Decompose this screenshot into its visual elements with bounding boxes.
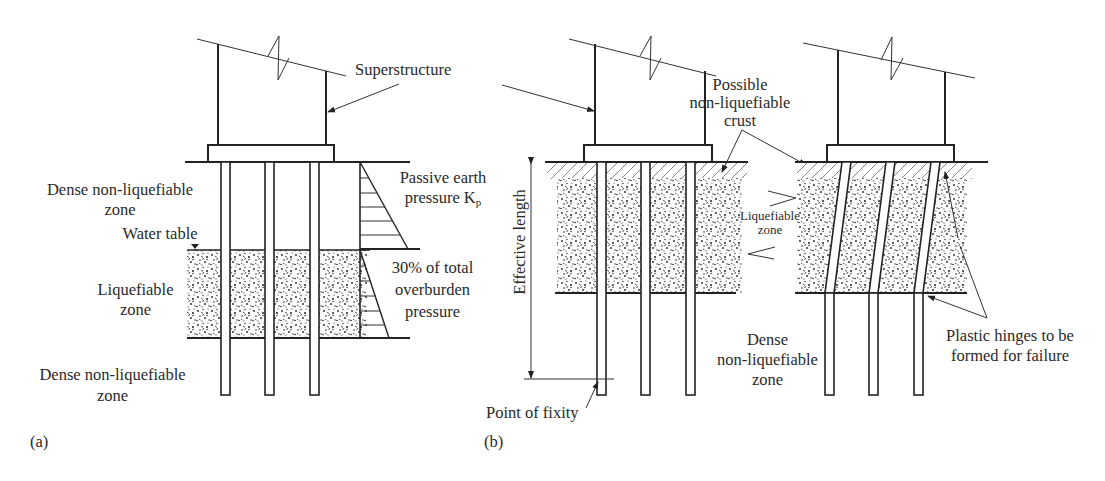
liquefiable-zone-label-line1: Liquefiable bbox=[88, 280, 183, 300]
panel-a bbox=[185, 36, 420, 395]
crust-label-line3: crust bbox=[685, 111, 795, 131]
panel-a-label: (a) bbox=[30, 432, 48, 452]
liquefiable-zone-b-line1: Liquefiable bbox=[730, 208, 810, 223]
crust-label-line1: Possible bbox=[685, 75, 795, 95]
overburden-label-line2: overburden bbox=[380, 280, 485, 300]
point-of-fixity-label: Point of fixity bbox=[486, 403, 579, 423]
plastic-hinges-label-line2: formed for failure bbox=[925, 346, 1095, 366]
dense-zone-b-line1: Dense bbox=[705, 330, 830, 350]
effective-length-label: Effective length bbox=[510, 182, 530, 302]
dense-zone-b-line3: zone bbox=[705, 370, 830, 390]
passive-pressure-label-line2: pressure Kp bbox=[388, 188, 498, 212]
liquefiable-zone-label-line2: zone bbox=[88, 300, 183, 320]
dense-zone-b-line2: non-liquefiable bbox=[705, 350, 830, 370]
zone-top-label-line2: zone bbox=[30, 200, 210, 220]
overburden-label-line1: 30% of total bbox=[380, 258, 485, 278]
water-table-label: Water table bbox=[110, 224, 210, 244]
panel-b-label: (b) bbox=[484, 432, 503, 452]
liquefiable-zone-b-line2: zone bbox=[730, 222, 810, 237]
superstructure-label: Superstructure bbox=[355, 60, 451, 80]
crust-label-line2: non-liquefiable bbox=[685, 93, 795, 113]
zone-bottom-label-line2: zone bbox=[25, 386, 200, 406]
zone-top-label-line1: Dense non-liquefiable bbox=[30, 180, 210, 200]
overburden-label-line3: pressure bbox=[380, 302, 485, 322]
passive-pressure-label-line1: Passive earth bbox=[388, 168, 498, 188]
plastic-hinges-label-line1: Plastic hinges to be bbox=[925, 326, 1095, 346]
zone-bottom-label-line1: Dense non-liquefiable bbox=[25, 365, 200, 385]
